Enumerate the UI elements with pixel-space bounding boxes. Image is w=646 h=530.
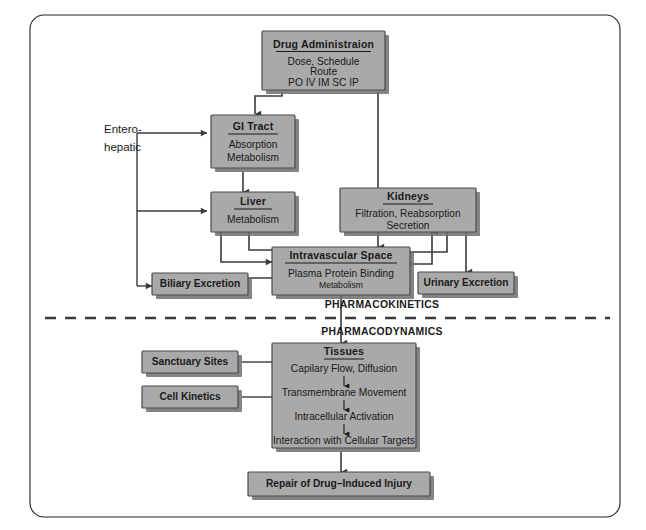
pharmacokinetics-label: PHARMACOKINETICS [325,299,439,310]
repair-title: Repair of Drug–Induced Injury [266,478,412,489]
node-gi-tract[interactable]: GI Tract Absorption Metabolism [211,115,299,172]
node-liver[interactable]: Liver Metabolism [211,192,299,236]
enterohepatic-line1: Entero- [104,123,142,135]
node-tissues[interactable]: Tissues Capilary Flow, Diffusion Transme… [272,343,420,452]
node-cell-kinetics[interactable]: Cell Kinetics [142,386,242,412]
node-intravascular-space[interactable]: Intravascular Space Plasma Protein Bindi… [272,247,414,299]
biliary-excretion-title: Biliary Excretion [160,278,240,289]
drug-administration-title: Drug Administraion [273,38,374,50]
kidneys-title: Kidneys [387,190,429,202]
label-enterohepatic: Entero- hepatic [104,123,142,153]
flowchart-canvas: Drug Administraion Dose, Schedule Route … [0,0,646,530]
drug-administration-line1: Dose, Schedule [288,56,360,67]
tissues-title: Tissues [324,345,364,357]
kidneys-line2: Secretion [386,220,429,231]
drug-administration-line2: Route [310,66,338,77]
tissues-step3: Intracellular Activation [294,411,393,422]
pharmacodynamics-label: PHARMACODYNAMICS [321,326,442,337]
tissues-step4: Interaction with Cellular Targets [273,435,415,446]
node-biliary-excretion[interactable]: Biliary Excretion [152,273,252,299]
tissues-step2: Transmembrane Movement [282,387,407,398]
drug-administration-routes: PO IV IM SC IP [288,77,359,88]
liver-title: Liver [240,195,266,207]
kidneys-line1: Filtration, Reabsorption [355,208,460,219]
pk-pd-flowchart-diagram: Drug Administraion Dose, Schedule Route … [0,0,646,530]
node-repair-of-drug-induced-injury[interactable]: Repair of Drug–Induced Injury [248,472,434,500]
intravascular-space-line2: Metabolism [319,280,363,290]
cell-kinetics-title: Cell Kinetics [159,391,220,402]
sanctuary-sites-title: Sanctuary Sites [152,356,229,367]
intravascular-space-title: Intravascular Space [289,249,392,261]
connector-admin-to-gitract [255,92,282,114]
liver-line1: Metabolism [227,214,279,225]
intravascular-space-line1: Plasma Protein Binding [288,268,394,279]
tissues-step1: Capilary Flow, Diffusion [291,363,397,374]
gi-tract-line1: Absorption [229,139,278,150]
node-drug-administration[interactable]: Drug Administraion Dose, Schedule Route … [262,31,389,94]
gi-tract-line2: Metabolism [227,152,279,163]
node-sanctuary-sites[interactable]: Sanctuary Sites [142,351,242,377]
node-urinary-excretion[interactable]: Urinary Excretion [418,272,518,298]
node-kidneys[interactable]: Kidneys Filtration, Reabsorption Secreti… [340,188,480,236]
urinary-excretion-title: Urinary Excretion [424,277,509,288]
enterohepatic-line2: hepatic [104,141,141,153]
gi-tract-title: GI Tract [233,120,274,132]
connector-liver-to-intravascular-outer [221,232,272,262]
